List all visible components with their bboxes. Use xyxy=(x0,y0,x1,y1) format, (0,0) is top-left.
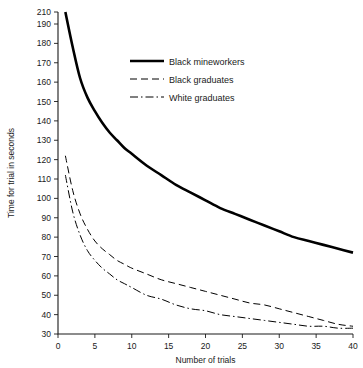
y-tick-label-80: 80 xyxy=(42,232,52,242)
legend-label-0: Black mineworkers xyxy=(169,57,245,67)
legend-label-1: Black graduates xyxy=(169,75,234,85)
x-tick-label-5: 5 xyxy=(93,341,98,351)
y-tick-label-60: 60 xyxy=(42,271,52,281)
y-tick-label-170: 170 xyxy=(37,58,51,68)
x-tick-label-25: 25 xyxy=(238,341,248,351)
y-tick-label-160: 160 xyxy=(37,77,51,87)
y-tick-label-190: 190 xyxy=(37,19,51,29)
y-tick-label-120: 120 xyxy=(37,155,51,165)
chart-container: 3040506070809010011012013014015016017018… xyxy=(0,0,363,368)
x-tick-label-35: 35 xyxy=(311,341,321,351)
y-tick-label-40: 40 xyxy=(42,310,52,320)
legend-label-2: White graduates xyxy=(169,93,235,103)
x-tick-label-20: 20 xyxy=(201,341,211,351)
y-tick-label-90: 90 xyxy=(42,213,52,223)
y-tick-label-180: 180 xyxy=(37,38,51,48)
series-line-2 xyxy=(65,175,353,328)
y-tick-label-140: 140 xyxy=(37,116,51,126)
y-tick-label-30: 30 xyxy=(42,329,52,339)
x-tick-label-15: 15 xyxy=(164,341,174,351)
x-axis-title: Number of trials xyxy=(176,355,236,365)
y-tick-label-150: 150 xyxy=(37,97,51,107)
y-tick-label-210: 210 xyxy=(37,7,51,17)
y-tick-label-130: 130 xyxy=(37,135,51,145)
learning-curve-chart: 3040506070809010011012013014015016017018… xyxy=(0,0,363,368)
y-tick-label-70: 70 xyxy=(42,252,52,262)
y-tick-label-110: 110 xyxy=(37,174,51,184)
series-line-0 xyxy=(65,12,353,253)
x-tick-label-0: 0 xyxy=(56,341,61,351)
y-axis-title: Time for trial in seconds xyxy=(6,128,16,218)
y-tick-label-50: 50 xyxy=(42,290,52,300)
x-tick-label-40: 40 xyxy=(348,341,358,351)
x-tick-label-30: 30 xyxy=(275,341,285,351)
y-tick-label-100: 100 xyxy=(37,193,51,203)
x-tick-label-10: 10 xyxy=(127,341,137,351)
